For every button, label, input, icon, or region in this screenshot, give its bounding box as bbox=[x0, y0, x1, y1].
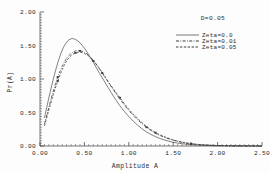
legend-label-2: Zeta=0.05 bbox=[202, 44, 237, 51]
y-tick-label-2: 1.00 bbox=[20, 76, 36, 83]
curve-marker bbox=[92, 60, 94, 62]
x-tick-label-5: 2.50 bbox=[254, 150, 270, 157]
x-tick-label-4: 2.00 bbox=[210, 150, 226, 157]
curve-marker bbox=[57, 80, 59, 82]
x-axis-title: Amplitude A bbox=[112, 163, 159, 170]
curve-marker bbox=[57, 76, 59, 78]
curve-marker bbox=[154, 132, 156, 134]
chart-figure: 0.00 0.50 1.00 1.50 2.00 2.50 0.00 0.50 … bbox=[0, 0, 270, 173]
curve-zeta-0-0 bbox=[44, 39, 262, 146]
annotation-d-value: D=0.05 bbox=[201, 15, 225, 22]
y-tick-label-1: 0.50 bbox=[20, 110, 36, 117]
plot-canvas: 0.00 0.50 1.00 1.50 2.00 2.50 0.00 0.50 … bbox=[0, 0, 270, 173]
y-tick-label-0: 0.00 bbox=[20, 143, 36, 150]
x-axis-tick-labels: 0.00 0.50 1.00 1.50 2.00 2.50 bbox=[32, 150, 270, 157]
y-tick-label-3: 1.50 bbox=[20, 43, 36, 50]
x-axis-ticks bbox=[40, 142, 262, 146]
curve-marker bbox=[79, 50, 81, 52]
legend: Zeta=0.0 Zeta=0.01 Zeta=0.05 bbox=[176, 32, 237, 51]
y-axis-title: Pr(A) bbox=[7, 71, 14, 92]
x-tick-label-1: 0.50 bbox=[76, 150, 92, 157]
y-axis-tick-labels: 0.00 0.50 1.00 1.50 2.00 bbox=[20, 9, 36, 150]
y-axis-ticks bbox=[40, 12, 44, 146]
curve-markers bbox=[57, 50, 192, 145]
y-tick-label-4: 2.00 bbox=[20, 9, 36, 16]
legend-item-2[interactable]: Zeta=0.05 bbox=[176, 44, 237, 51]
curve-zeta-0-01 bbox=[44, 51, 262, 146]
x-tick-label-2: 1.00 bbox=[121, 150, 137, 157]
x-tick-label-3: 1.50 bbox=[165, 150, 181, 157]
curve-marker bbox=[74, 52, 76, 54]
curve-marker bbox=[119, 97, 121, 99]
curve-marker bbox=[190, 143, 192, 145]
x-tick-label-0: 0.00 bbox=[32, 150, 48, 157]
curve-marker bbox=[145, 126, 147, 128]
curve-marker bbox=[101, 72, 103, 74]
data-curves bbox=[44, 39, 262, 146]
